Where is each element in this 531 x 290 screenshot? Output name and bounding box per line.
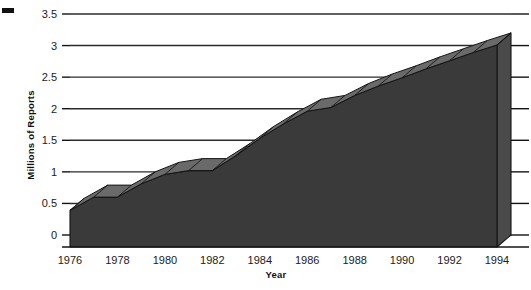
x-tick-label: 1986	[295, 254, 319, 266]
crop-mark-icon	[2, 8, 14, 13]
y-tick-labels-group: 00.511.522.533.5	[42, 8, 57, 241]
area-depth-face	[497, 33, 511, 247]
y-tick-label: 0	[51, 229, 57, 241]
y-tick-label: 0.5	[42, 197, 57, 209]
y-tick-label: 1.5	[42, 134, 57, 146]
chart-canvas: 00.511.522.533.5 19761978198019821984198…	[0, 0, 531, 290]
left-tick-marks-group	[62, 14, 70, 235]
area-chart: 00.511.522.533.5 19761978198019821984198…	[0, 0, 531, 290]
y-tick-label: 3	[51, 40, 57, 52]
x-tick-labels-group: 1976197819801982198419861988199019921994	[58, 254, 509, 266]
x-tick-label: 1982	[200, 254, 224, 266]
area-front-face	[70, 45, 497, 247]
x-tick-label: 1980	[153, 254, 177, 266]
y-axis-title: Millions of Reports	[25, 90, 36, 179]
x-tick-label: 1988	[342, 254, 366, 266]
x-tick-label: 1976	[58, 254, 82, 266]
y-tick-label: 1	[51, 166, 57, 178]
x-tick-label: 1990	[390, 254, 414, 266]
right-tick-stubs-group	[511, 14, 529, 235]
x-tick-label: 1978	[105, 254, 129, 266]
y-tick-label: 2.5	[42, 71, 57, 83]
y-tick-label: 2	[51, 103, 57, 115]
x-tick-label: 1984	[248, 254, 272, 266]
y-tick-label: 3.5	[42, 8, 57, 20]
x-tick-label: 1992	[437, 254, 461, 266]
x-tick-label: 1994	[485, 254, 509, 266]
x-axis-title: Year	[266, 269, 287, 280]
